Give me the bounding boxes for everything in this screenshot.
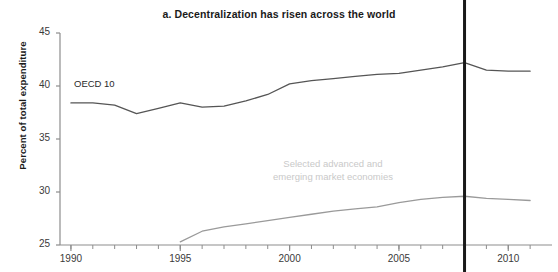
series-label-emerging-line1: Selected advanced and — [283, 158, 382, 169]
x-axis-tick-label: 1990 — [49, 253, 93, 264]
chart-page: a. Decentralization has risen across the… — [0, 0, 558, 272]
series-label-oecd-10: OECD 10 — [74, 77, 115, 90]
series-paths — [71, 63, 530, 242]
y-axis-tick-label: 45 — [24, 26, 50, 37]
y-axis-tick-label: 30 — [24, 185, 50, 196]
x-axis-tick-label: 2010 — [486, 253, 530, 264]
series-label-emerging-economies: Selected advanced andemerging market eco… — [253, 157, 413, 183]
series-line — [180, 196, 530, 242]
x-axis-tick-label: 1995 — [158, 253, 202, 264]
axis-lines — [60, 33, 552, 245]
chart-plot-area — [0, 0, 558, 272]
y-axis-tick-label: 35 — [24, 132, 50, 143]
y-axis-tick-label: 25 — [24, 238, 50, 249]
x-axis-tick-label: 2005 — [377, 253, 421, 264]
y-axis-tick-label: 40 — [24, 79, 50, 90]
series-line — [71, 63, 530, 114]
series-label-emerging-line2: emerging market economies — [253, 170, 413, 183]
x-axis-tick-label: 2000 — [268, 253, 312, 264]
x-axis-minor-ticks — [71, 245, 530, 249]
